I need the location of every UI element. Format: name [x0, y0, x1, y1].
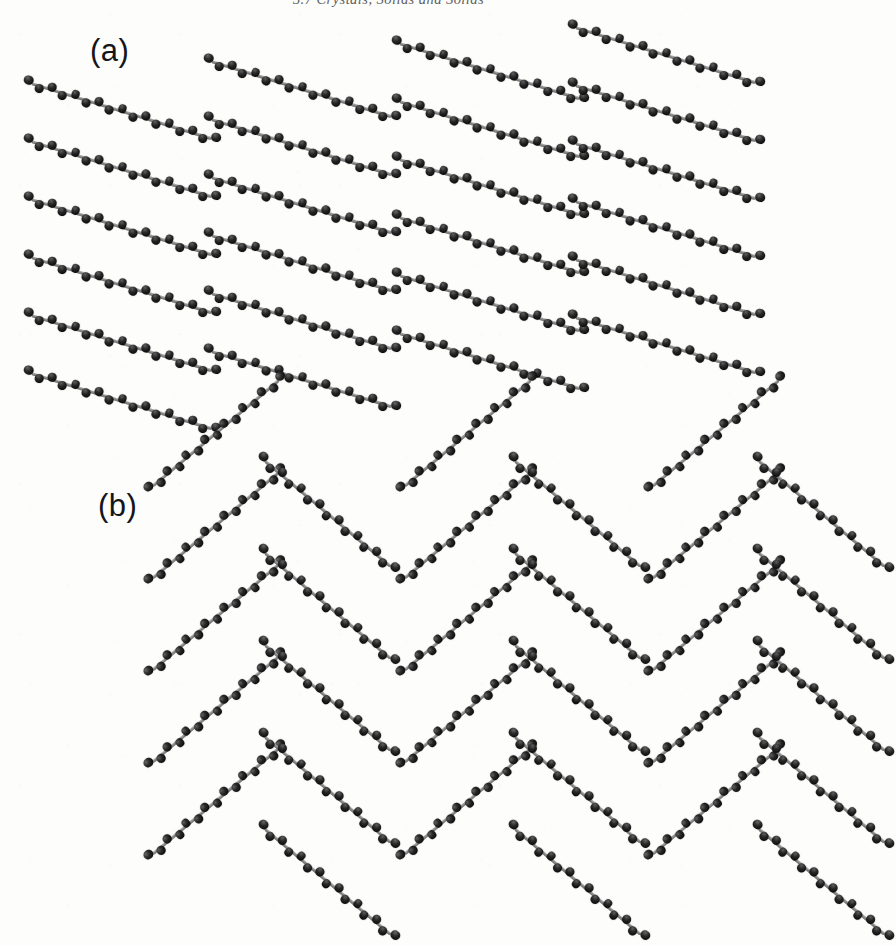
molecule-atom — [198, 365, 209, 376]
molecule-chain — [394, 36, 585, 106]
molecule-chain — [26, 366, 217, 436]
molecule-atom — [519, 311, 530, 322]
molecule-atom — [230, 505, 242, 517]
molecule-atom — [425, 224, 436, 235]
molecule-atom — [463, 521, 475, 533]
molecule-atom — [674, 737, 686, 749]
molecule-atom — [601, 34, 612, 45]
molecule-atom — [624, 99, 635, 110]
molecule-atom — [260, 249, 271, 260]
molecule-atom — [378, 401, 389, 412]
molecule-atom — [354, 104, 365, 115]
molecule-atom — [463, 613, 475, 625]
molecule-atom — [648, 165, 659, 176]
molecule-atom — [711, 429, 723, 441]
molecule-atom — [378, 111, 389, 122]
molecule-atom — [127, 286, 138, 297]
molecule-atom — [57, 380, 68, 391]
molecule-atom — [80, 329, 91, 340]
molecule-chain — [570, 194, 761, 264]
molecule-atom — [260, 365, 271, 376]
molecule-atom — [34, 257, 45, 268]
molecule-atom — [104, 163, 115, 174]
molecule-atom — [402, 43, 413, 54]
molecule-atom — [57, 322, 68, 333]
molecule-atom — [307, 206, 318, 217]
molecule-atom — [711, 705, 723, 717]
molecule-atom — [495, 72, 506, 83]
molecule-atom — [542, 144, 553, 155]
molecule-atom — [354, 336, 365, 347]
molecule-chain — [570, 310, 761, 380]
molecule-atom — [495, 188, 506, 199]
molecule-atom — [463, 429, 475, 441]
molecule-terminal-atom — [642, 480, 656, 494]
molecule-terminal-atom — [883, 928, 896, 942]
molecule-atom — [655, 476, 667, 488]
molecule-chain — [646, 741, 786, 862]
molecule-atom — [284, 83, 295, 94]
molecule-atom — [495, 130, 506, 141]
molecule-terminal-atom — [210, 363, 222, 375]
molecule-atom — [354, 394, 365, 405]
molecule-atom — [730, 505, 742, 517]
molecule-chain — [394, 94, 585, 164]
molecule-atom — [174, 300, 185, 311]
molecule-atom — [237, 126, 248, 137]
molecule-terminal-atom — [142, 756, 156, 770]
molecule-atom — [174, 416, 185, 427]
panel-b-molecule-lattice — [0, 430, 777, 910]
molecule-atom — [211, 705, 223, 717]
molecule-atom — [407, 844, 419, 856]
molecule-atom — [695, 179, 706, 190]
molecule-atom — [742, 77, 753, 88]
molecule-atom — [742, 193, 753, 204]
molecule-atom — [695, 237, 706, 248]
molecule-atom — [284, 257, 295, 268]
molecule-atom — [80, 97, 91, 108]
molecule-atom — [730, 597, 742, 609]
molecule-chain — [26, 250, 217, 320]
molecule-atom — [211, 613, 223, 625]
molecule-atom — [198, 133, 209, 144]
molecule-atom — [307, 264, 318, 275]
molecule-atom — [482, 689, 494, 701]
molecule-chain — [206, 228, 397, 298]
molecule-atom — [711, 613, 723, 625]
molecule-atom — [57, 264, 68, 275]
molecule-atom — [378, 227, 389, 238]
molecule-atom — [407, 476, 419, 488]
molecule-atom — [193, 629, 205, 641]
molecule-atom — [127, 170, 138, 181]
molecule-atom — [127, 344, 138, 355]
molecule-atom — [104, 337, 115, 348]
molecule-terminal-atom — [642, 848, 656, 862]
molecule-chain — [570, 136, 761, 206]
molecule-atom — [718, 302, 729, 313]
molecule-atom — [718, 70, 729, 81]
molecule-terminal-atom — [578, 381, 590, 393]
molecule-atom — [674, 553, 686, 565]
molecule-atom — [655, 660, 667, 672]
molecule-atom — [501, 673, 513, 685]
molecule-atom — [693, 721, 705, 733]
molecule-terminal-atom — [754, 75, 766, 87]
molecule-terminal-atom — [754, 133, 766, 145]
molecule-atom — [482, 781, 494, 793]
molecule-atom — [768, 382, 780, 394]
molecule-atom — [249, 765, 261, 777]
molecule-atom — [155, 660, 167, 672]
molecule-atom — [307, 148, 318, 159]
molecule-atom — [482, 505, 494, 517]
molecule-terminal-atom — [883, 744, 896, 758]
molecule-atom — [601, 92, 612, 103]
molecule-atom — [472, 355, 483, 366]
molecule-atom — [519, 253, 530, 264]
molecule-chain — [570, 20, 761, 90]
molecule-atom — [519, 195, 530, 206]
molecule-atom — [624, 273, 635, 284]
molecule-atom — [445, 537, 457, 549]
molecule-atom — [104, 279, 115, 290]
molecule-atom — [127, 112, 138, 123]
molecule-atom — [354, 278, 365, 289]
